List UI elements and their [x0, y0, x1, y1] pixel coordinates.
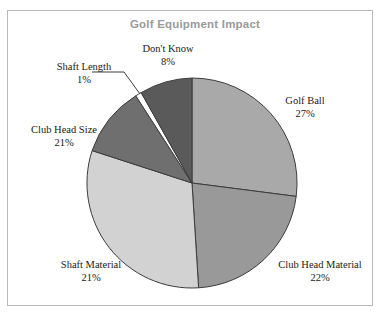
pie-label-shaft-material: Shaft Material 21%	[36, 259, 146, 284]
pie-label-club-head-material-name: Club Head Material	[258, 259, 382, 272]
pie-label-club-head-size-name: Club Head Size	[12, 124, 116, 137]
pie-label-club-head-material-value: 22%	[258, 272, 382, 285]
pie-label-golf-ball-value: 27%	[263, 108, 347, 121]
pie-label-club-head-material: Club Head Material 22%	[258, 259, 382, 284]
pie-label-dont-know-value: 8%	[118, 56, 218, 69]
pie-label-dont-know: Don't Know 8%	[118, 43, 218, 68]
pie-label-shaft-length-name: Shaft Length	[40, 61, 128, 74]
pie-label-golf-ball: Golf Ball 27%	[263, 95, 347, 120]
pie-label-shaft-length: Shaft Length 1%	[40, 61, 128, 86]
pie-label-club-head-size: Club Head Size 21%	[12, 124, 116, 149]
pie-label-shaft-length-value: 1%	[40, 74, 128, 87]
pie-label-shaft-material-value: 21%	[36, 272, 146, 285]
pie-label-golf-ball-name: Golf Ball	[263, 95, 347, 108]
pie-label-dont-know-name: Don't Know	[118, 43, 218, 56]
chart-page: Golf Equipment Impact Don't Know 8% Shaf…	[0, 0, 390, 321]
pie-label-shaft-material-name: Shaft Material	[36, 259, 146, 272]
pie-label-club-head-size-value: 21%	[12, 137, 116, 150]
